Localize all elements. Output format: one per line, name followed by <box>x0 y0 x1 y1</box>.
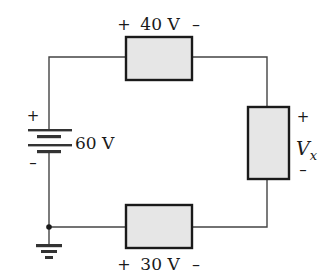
wire-top-right <box>192 57 267 106</box>
wire-top-left <box>49 57 126 130</box>
circuit-diagram: + – 60 V + 40 V – + Vx – + 30 V – <box>0 0 331 279</box>
vx-sub: x <box>310 148 318 163</box>
battery-icon <box>28 129 72 153</box>
resistor-top-minus: – <box>192 15 200 34</box>
resistor-right-minus: – <box>299 161 307 179</box>
resistor-bottom <box>126 205 192 248</box>
resistor-top-plus: + <box>117 15 130 34</box>
resistor-top-label: 40 V <box>140 14 180 34</box>
resistor-right <box>248 107 289 179</box>
junction-dot <box>46 224 52 230</box>
resistor-bottom-plus: + <box>117 255 130 274</box>
battery-minus: – <box>29 154 37 172</box>
resistor-bottom-minus: – <box>192 255 200 274</box>
resistor-right-label: Vx <box>296 137 318 163</box>
resistor-bottom-label: 30 V <box>140 254 180 274</box>
resistor-right-plus: + <box>297 108 310 126</box>
wire-right-bottom <box>192 179 267 227</box>
battery-plate-long-2 <box>28 144 72 146</box>
battery-plate-short-1 <box>37 135 61 138</box>
resistor-top <box>126 37 192 80</box>
battery-plate-long-1 <box>28 129 72 131</box>
ground-icon <box>36 244 62 259</box>
battery-plus: + <box>27 107 40 125</box>
battery-plate-short-2 <box>37 150 61 153</box>
battery-voltage-label: 60 V <box>75 133 115 153</box>
